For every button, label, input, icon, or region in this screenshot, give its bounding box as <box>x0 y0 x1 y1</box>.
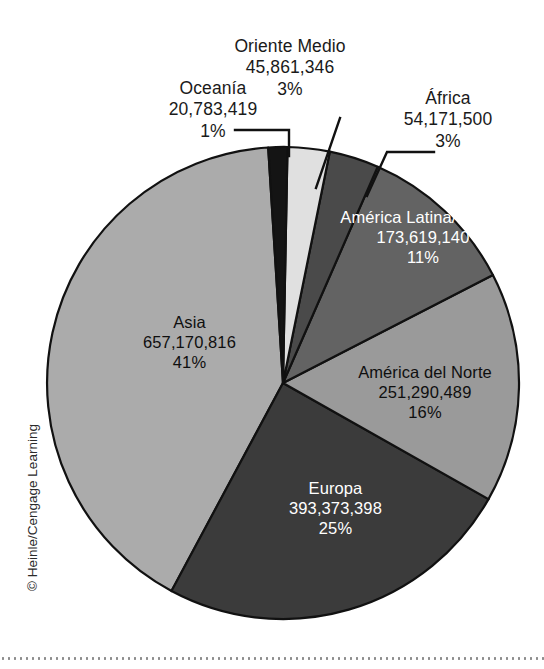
pie-label-value: 54,171,500 <box>368 109 528 130</box>
pie-label-name: América Latina/Caribe <box>338 207 508 227</box>
pie-label-value: 393,373,398 <box>248 498 423 518</box>
pie-label-percent: 25% <box>248 518 423 538</box>
pie-label-value: 45,861,346 <box>205 57 375 78</box>
pie-label-europa: Europa 393,373,398 25% <box>248 478 423 538</box>
pie-label-value: 173,619,140 <box>338 227 508 247</box>
pie-label-america-latina-caribe: América Latina/Caribe 173,619,140 11% <box>338 207 508 267</box>
pie-label-percent: 41% <box>102 352 277 372</box>
pie-label-name: Europa <box>248 478 423 498</box>
pie-label-percent: 3% <box>368 131 528 152</box>
pie-label-name: África <box>368 88 528 109</box>
pie-label-africa: África 54,171,500 3% <box>368 88 528 152</box>
pie-label-value: 20,783,419 <box>138 99 288 120</box>
pie-label-name: América del Norte <box>330 362 520 382</box>
pie-label-value: 251,290,489 <box>330 382 520 402</box>
pie-chart-figure: Oriente Medio 45,861,346 3% Oceanía 20,7… <box>0 0 544 669</box>
copyright-credit: © Heinle/Cengage Learning <box>25 418 40 598</box>
pie-label-percent: 1% <box>138 121 288 142</box>
pie-label-percent: 16% <box>330 402 520 422</box>
pie-label-percent: 11% <box>338 247 508 267</box>
pie-label-oceania: Oceanía 20,783,419 1% <box>138 78 288 142</box>
pie-label-name: Asia <box>102 312 277 332</box>
pie-label-asia: Asia 657,170,816 41% <box>102 312 277 372</box>
pie-label-name: Oriente Medio <box>205 36 375 57</box>
pie-label-name: Oceanía <box>138 78 288 99</box>
dotted-divider <box>0 657 544 660</box>
pie-label-value: 657,170,816 <box>102 332 277 352</box>
pie-label-america-del-norte: América del Norte 251,290,489 16% <box>330 362 520 422</box>
